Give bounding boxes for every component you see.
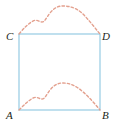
vertex-label-b: B <box>102 110 109 121</box>
figure-canvas <box>0 0 117 128</box>
vertex-label-c: C <box>6 31 13 42</box>
geometry-figure: C D A B <box>0 0 117 128</box>
vertex-label-d: D <box>102 31 110 42</box>
vertex-label-a: A <box>6 110 13 121</box>
upper-dashed-curve <box>19 6 100 34</box>
lower-dashed-curve <box>19 83 100 110</box>
